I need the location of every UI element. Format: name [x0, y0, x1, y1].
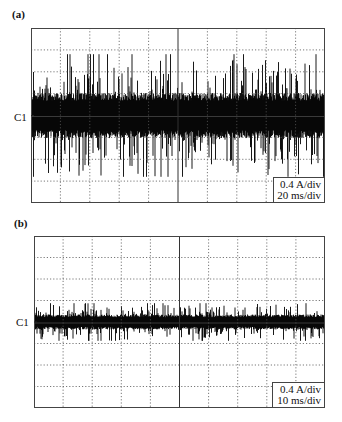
panel-a-scale-legend: 0.4 A/div 20 ms/div	[273, 177, 325, 203]
panel-b-label: (b)	[14, 217, 27, 229]
panel-b-channel-marker: C1	[16, 316, 29, 328]
panel-a-channel-marker: C1	[14, 111, 27, 123]
panel-a-time-scale: 20 ms/div	[277, 190, 321, 201]
panel-b-time-scale: 10 ms/div	[276, 395, 321, 406]
panel-b-scale-legend: 0.4 A/div 10 ms/div	[272, 382, 325, 408]
panel-a-label: (a)	[12, 8, 25, 20]
